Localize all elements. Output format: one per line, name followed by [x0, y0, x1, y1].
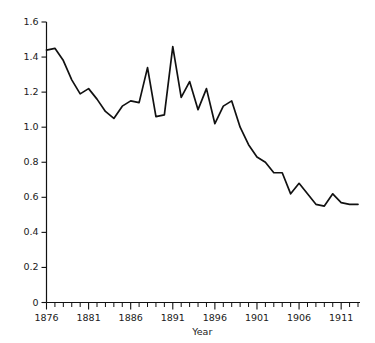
x-axis-tick-label: 1881 — [77, 312, 101, 323]
y-axis-tick-label: 0 — [32, 297, 38, 308]
x-axis-tick-label: 1876 — [34, 312, 58, 323]
x-axis-tick-label: 1911 — [329, 312, 353, 323]
y-axis-tick-label: 0.8 — [23, 156, 38, 167]
y-axis-tick-label: 1.0 — [23, 121, 38, 132]
x-axis-title: Year — [191, 326, 212, 337]
x-axis-tick-label: 1886 — [119, 312, 143, 323]
line-chart: 00.20.40.60.81.01.21.41.6187618811886189… — [0, 0, 375, 343]
chart-container: 00.20.40.60.81.01.21.41.6187618811886189… — [0, 0, 375, 343]
y-axis-tick-label: 0.4 — [23, 226, 38, 237]
y-axis-tick-label: 0.2 — [23, 261, 38, 272]
x-axis-tick-label: 1891 — [161, 312, 185, 323]
y-axis-tick-label: 1.6 — [23, 16, 38, 27]
data-series-line — [47, 47, 359, 207]
x-axis-tick-label: 1896 — [203, 312, 227, 323]
x-axis-tick-label: 1906 — [287, 312, 311, 323]
y-axis-tick-label: 1.4 — [23, 51, 38, 62]
x-axis-tick-label: 1901 — [245, 312, 269, 323]
y-axis-tick-label: 1.2 — [23, 86, 38, 97]
y-axis-tick-label: 0.6 — [23, 191, 38, 202]
